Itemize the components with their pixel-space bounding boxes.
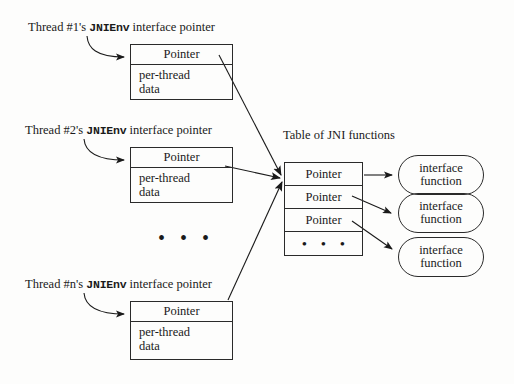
label-to-box-arrow-2 bbox=[84, 139, 124, 160]
jni-table-row-3: Pointer bbox=[285, 209, 362, 232]
thread-1-label-mono: JNIEnv bbox=[89, 21, 129, 34]
jni-table-caption: Table of JNI functions bbox=[283, 128, 395, 143]
thread-2-label-prefix: Thread #2's bbox=[25, 123, 86, 137]
interface-function-1-line2: function bbox=[420, 175, 462, 189]
thread-n-label-suffix: interface pointer bbox=[126, 277, 211, 291]
interface-function-2-line2: function bbox=[420, 213, 462, 227]
interface-function-3-line1: interface bbox=[419, 244, 463, 258]
label-to-box-arrow-1 bbox=[87, 36, 124, 57]
thread-1-data-line1: per-thread bbox=[139, 69, 232, 83]
interface-function-oval-3: interface function bbox=[398, 237, 484, 277]
thread-n-data-cell: per-thread data bbox=[131, 322, 232, 353]
thread-2-data-cell: per-thread data bbox=[131, 168, 232, 199]
jni-table-row-ellipsis: • • • bbox=[285, 232, 362, 256]
thread-1-label-suffix: interface pointer bbox=[129, 20, 214, 34]
interface-function-2-line1: interface bbox=[419, 200, 463, 214]
thread-n-env-box: Pointer per-thread data bbox=[130, 301, 233, 360]
thread-1-label-prefix: Thread #1's bbox=[28, 20, 89, 34]
interface-function-oval-2: interface function bbox=[398, 193, 484, 233]
thread-2-pointer-cell: Pointer bbox=[131, 148, 232, 168]
box2-to-table-arrow bbox=[225, 166, 280, 178]
thread-2-label: Thread #2's JNIEnv interface pointer bbox=[25, 123, 212, 138]
thread-n-label-prefix: Thread #n's bbox=[25, 277, 86, 291]
thread-n-data-line1: per-thread bbox=[139, 326, 232, 340]
thread-1-pointer-cell: Pointer bbox=[131, 45, 232, 65]
thread-n-label-mono: JNIEnv bbox=[86, 278, 126, 291]
jni-function-table: Pointer Pointer Pointer • • • bbox=[284, 162, 363, 256]
thread-n-pointer-cell: Pointer bbox=[131, 302, 232, 322]
label-to-box-arrow-3 bbox=[84, 293, 124, 314]
interface-function-1-line1: interface bbox=[419, 162, 463, 176]
jni-table-row-2: Pointer bbox=[285, 186, 362, 209]
diagram-canvas: Thread #1's JNIEnv interface pointer Poi… bbox=[0, 0, 514, 384]
thread-2-label-mono: JNIEnv bbox=[86, 124, 126, 137]
thread-1-data-cell: per-thread data bbox=[131, 65, 232, 96]
interface-function-oval-1: interface function bbox=[398, 155, 484, 195]
thread-1-data-line2: data bbox=[139, 83, 232, 97]
thread-n-label: Thread #n's JNIEnv interface pointer bbox=[25, 277, 212, 292]
thread-n-data-line2: data bbox=[139, 340, 232, 354]
thread-2-data-line1: per-thread bbox=[139, 172, 232, 186]
box3-to-table-arrow bbox=[228, 182, 282, 300]
thread-2-env-box: Pointer per-thread data bbox=[130, 147, 233, 203]
jni-table-row-1: Pointer bbox=[285, 163, 362, 186]
thread-1-label: Thread #1's JNIEnv interface pointer bbox=[28, 20, 215, 35]
thread-2-data-line2: data bbox=[139, 186, 232, 200]
thread-1-env-box: Pointer per-thread data bbox=[130, 44, 233, 100]
interface-function-3-line2: function bbox=[420, 257, 462, 271]
threads-ellipsis: • • • bbox=[158, 228, 214, 248]
thread-2-label-suffix: interface pointer bbox=[126, 123, 211, 137]
